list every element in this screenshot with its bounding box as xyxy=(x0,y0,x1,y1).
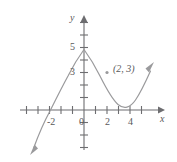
curve-end-arrowhead xyxy=(146,62,155,73)
x-tick-label-two: 2 xyxy=(105,117,110,127)
x-tick-label-four: 4 xyxy=(128,117,133,127)
y-axis-arrowhead xyxy=(81,15,88,22)
x-axis-label: x xyxy=(160,114,164,124)
y-tick-label-five: 5 xyxy=(70,42,75,52)
x-tick-label-neg2: -2 xyxy=(47,117,55,127)
graph-figure: -2 0 2 4 5 3 x y (2, 3) xyxy=(0,0,177,162)
y-axis-label: y xyxy=(70,13,74,23)
coordinate-plot xyxy=(0,0,177,162)
x-tick-label-zero: 0 xyxy=(79,117,84,127)
point-marker-2-3 xyxy=(105,71,108,74)
y-tick-label-three: 3 xyxy=(70,67,75,77)
curve-start-arrowhead xyxy=(30,145,38,156)
point-annotation-label: (2, 3) xyxy=(113,64,135,74)
